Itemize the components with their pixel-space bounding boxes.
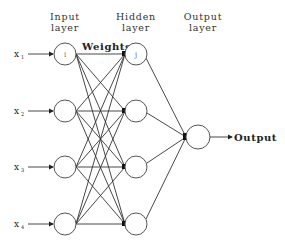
hidden-output-edges	[146, 58, 188, 219]
output-label: Output	[234, 132, 277, 143]
svg-text:x: x	[14, 219, 19, 229]
svg-text:1: 1	[21, 54, 24, 60]
input-layer-nodes: i	[54, 43, 76, 235]
hidden-layer-nodes: j	[125, 43, 147, 235]
svg-text:layer: layer	[189, 22, 217, 33]
svg-text:2: 2	[21, 111, 24, 117]
neural-network-diagram: Input layer Hidden layer Output layer We…	[0, 0, 285, 250]
svg-text:j: j	[134, 51, 137, 59]
svg-text:4: 4	[21, 224, 24, 230]
input-hidden-edges	[76, 51, 126, 226]
svg-text:Hidden: Hidden	[116, 11, 156, 22]
output-node: Output	[186, 125, 277, 149]
svg-text:Output: Output	[184, 11, 223, 22]
svg-text:x: x	[14, 162, 19, 172]
svg-text:layer: layer	[122, 22, 150, 33]
weights-label: Weights	[81, 41, 131, 52]
svg-text:Input: Input	[50, 11, 80, 22]
input-layer-header: Input layer	[50, 11, 80, 33]
input-x3: x3	[14, 162, 53, 173]
hidden-layer-header: Hidden layer	[116, 11, 156, 33]
svg-text:layer: layer	[51, 22, 79, 33]
input-x2: x2	[14, 106, 53, 117]
svg-text:x: x	[14, 49, 19, 59]
svg-text:3: 3	[21, 167, 24, 173]
svg-text:x: x	[14, 106, 19, 116]
input-x4: x4	[14, 219, 53, 230]
output-layer-header: Output layer	[184, 11, 223, 33]
input-x1: x1	[14, 49, 53, 60]
